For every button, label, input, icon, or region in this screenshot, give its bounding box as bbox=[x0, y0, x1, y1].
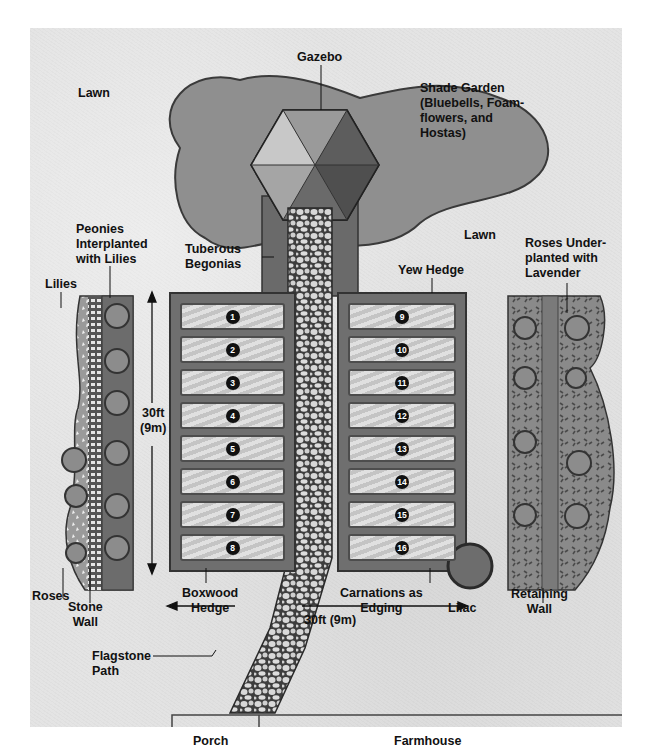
label-dim-vertical: 30ft (9m) bbox=[140, 406, 166, 436]
bed-number-marker: 4 bbox=[226, 409, 240, 423]
bed-number-marker: 11 bbox=[395, 376, 409, 390]
garden-bed-row: 14 bbox=[348, 468, 456, 495]
garden-bed-row: 7 bbox=[180, 501, 285, 528]
label-farmhouse: Farmhouse bbox=[394, 734, 461, 748]
garden-bed-row: 1 bbox=[180, 303, 285, 330]
bed-number-marker: 5 bbox=[226, 442, 240, 456]
beds-right-column: 910111213141516 bbox=[348, 303, 456, 567]
bed-number-marker: 7 bbox=[226, 508, 240, 522]
garden-bed-row: 4 bbox=[180, 402, 285, 429]
bed-number-marker: 14 bbox=[395, 475, 409, 489]
garden-bed-row: 11 bbox=[348, 369, 456, 396]
bed-number-marker: 9 bbox=[395, 310, 409, 324]
bed-number-marker: 13 bbox=[395, 442, 409, 456]
label-carnations: Carnations as Edging bbox=[340, 586, 423, 616]
bed-number-marker: 8 bbox=[226, 541, 240, 555]
label-roses-lavender: Roses Under- planted with Lavender bbox=[525, 236, 606, 281]
bed-number-marker: 16 bbox=[395, 541, 409, 555]
garden-bed-row: 3 bbox=[180, 369, 285, 396]
bed-number-marker: 2 bbox=[226, 343, 240, 357]
garden-bed-row: 16 bbox=[348, 534, 456, 561]
label-dim-horizontal: 30ft (9m) bbox=[304, 613, 356, 628]
label-lawn-top: Lawn bbox=[78, 86, 110, 101]
label-lilac: Lilac bbox=[448, 601, 477, 616]
bed-number-marker: 15 bbox=[395, 508, 409, 522]
label-lilies: Lilies bbox=[45, 277, 77, 292]
bed-number-marker: 6 bbox=[226, 475, 240, 489]
label-shade-garden: Shade Garden (Bluebells, Foam- flowers, … bbox=[420, 81, 524, 141]
label-roses: Roses bbox=[32, 589, 70, 604]
garden-bed-row: 2 bbox=[180, 336, 285, 363]
beds-left-column: 12345678 bbox=[180, 303, 285, 567]
bed-number-marker: 10 bbox=[395, 343, 409, 357]
garden-bed-row: 8 bbox=[180, 534, 285, 561]
label-yew-hedge: Yew Hedge bbox=[398, 263, 464, 278]
label-flagstone-path: Flagstone Path bbox=[92, 649, 151, 679]
bed-number-marker: 12 bbox=[395, 409, 409, 423]
label-boxwood-hedge: Boxwood Hedge bbox=[182, 586, 238, 616]
garden-bed-row: 15 bbox=[348, 501, 456, 528]
bed-number-marker: 3 bbox=[226, 376, 240, 390]
bed-number-marker: 1 bbox=[226, 310, 240, 324]
garden-bed-row: 5 bbox=[180, 435, 285, 462]
garden-bed-row: 13 bbox=[348, 435, 456, 462]
garden-bed-row: 10 bbox=[348, 336, 456, 363]
label-lawn-mid: Lawn bbox=[464, 228, 496, 243]
retaining-wall bbox=[542, 296, 558, 590]
label-peonies: Peonies Interplanted with Lilies bbox=[76, 222, 148, 267]
garden-bed-row: 9 bbox=[348, 303, 456, 330]
label-retaining-wall: Retaining Wall bbox=[511, 587, 568, 617]
label-gazebo: Gazebo bbox=[297, 50, 342, 65]
label-stone-wall: Stone Wall bbox=[68, 600, 103, 630]
garden-plan-canvas: 12345678 910111213141516 Lawn Gazebo Sha… bbox=[30, 28, 622, 727]
garden-bed-row: 6 bbox=[180, 468, 285, 495]
stone-wall bbox=[88, 296, 102, 590]
garden-bed-row: 12 bbox=[348, 402, 456, 429]
label-tuberous-begonias: Tuberous Begonias bbox=[185, 242, 241, 272]
label-porch: Porch bbox=[193, 734, 228, 748]
